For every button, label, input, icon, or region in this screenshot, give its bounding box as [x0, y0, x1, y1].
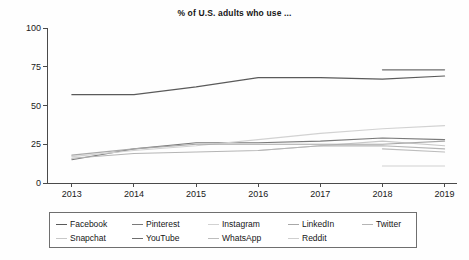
legend-item-reddit[interactable]: Reddit	[288, 233, 362, 243]
y-tick-label: 75	[31, 63, 41, 72]
legend-item-whatsapp[interactable]: WhatsApp	[208, 233, 288, 243]
chart-legend: FacebookPinterestInstagramLinkedInTwitte…	[49, 212, 417, 248]
series-line-facebook	[72, 76, 445, 95]
legend-swatch-icon	[132, 224, 143, 225]
legend-swatch-icon	[56, 238, 67, 239]
legend-label: WhatsApp	[222, 233, 261, 243]
y-axis-labels: 0255075100	[0, 0, 47, 260]
legend-label: Instagram	[222, 219, 260, 229]
legend-swatch-icon	[288, 224, 299, 225]
y-tick-label: 25	[31, 140, 41, 149]
legend-label: LinkedIn	[302, 219, 334, 229]
series-line-whatsapp	[382, 149, 444, 152]
y-tick-label: 0	[36, 179, 41, 188]
legend-label: YouTube	[146, 233, 179, 243]
legend-item-linkedin[interactable]: LinkedIn	[288, 219, 362, 229]
x-tick-label: 2014	[124, 190, 144, 199]
legend-swatch-icon	[132, 238, 143, 239]
plot-svg	[47, 28, 457, 183]
chart-figure: % of U.S. adults who use ... 0255075100 …	[0, 0, 469, 260]
plot-area	[47, 28, 457, 183]
x-tick-label: 2019	[435, 190, 455, 199]
legend-swatch-icon	[208, 224, 219, 225]
legend-swatch-icon	[362, 224, 373, 225]
legend-label: Facebook	[70, 219, 107, 229]
legend-label: Pinterest	[146, 219, 180, 229]
legend-label: Twitter	[376, 219, 401, 229]
legend-item-snapchat[interactable]: Snapchat	[56, 233, 132, 243]
legend-item-twitter[interactable]: Twitter	[362, 219, 424, 229]
legend-item-youtube[interactable]: YouTube	[132, 233, 208, 243]
x-tick-label: 2016	[248, 190, 268, 199]
legend-item-instagram[interactable]: Instagram	[208, 219, 288, 229]
y-tick-label: 50	[31, 102, 41, 111]
chart-title: % of U.S. adults who use ...	[0, 8, 469, 18]
legend-item-pinterest[interactable]: Pinterest	[132, 219, 208, 229]
legend-swatch-icon	[56, 224, 67, 225]
series-line-twitter	[72, 146, 445, 158]
legend-swatch-icon	[208, 238, 219, 239]
legend-grid: FacebookPinterestInstagramLinkedInTwitte…	[56, 217, 424, 245]
legend-label: Snapchat	[70, 233, 106, 243]
x-tick-label: 2017	[310, 190, 330, 199]
legend-item-facebook[interactable]: Facebook	[56, 219, 132, 229]
x-tick-label: 2018	[372, 190, 392, 199]
x-tick-label: 2013	[62, 190, 82, 199]
y-tick-label: 100	[26, 24, 41, 33]
x-tick-label: 2015	[186, 190, 206, 199]
legend-swatch-icon	[288, 238, 299, 239]
legend-label: Reddit	[302, 233, 327, 243]
